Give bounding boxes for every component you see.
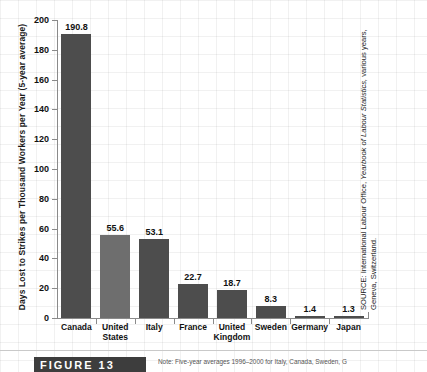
y-tick-label-200: 200: [34, 15, 49, 25]
y-tick-label-140: 140: [34, 104, 49, 114]
y-tick-label-40: 40: [39, 253, 49, 263]
value-label-italy: 53.1: [132, 227, 176, 237]
bar-united-states: [100, 235, 130, 318]
caption-divider: [0, 350, 427, 351]
source-prefix: SOURCE: International Labour Office,: [359, 182, 368, 310]
value-label-germany: 1.4: [288, 304, 332, 314]
bar-japan: [334, 316, 364, 318]
y-tick-label-160: 160: [34, 75, 49, 85]
figure-number-badge: FIGURE 13: [34, 357, 146, 372]
source-note: SOURCE: International Labour Office, Yea…: [359, 10, 379, 310]
value-label-united-states: 55.6: [93, 223, 137, 233]
y-tick-label-0: 0: [44, 313, 49, 323]
bar-canada: [61, 34, 91, 318]
category-label-japan: Japan: [323, 322, 375, 332]
bar-france: [178, 284, 208, 318]
figure-chart: Days Lost to Strikes per Thousand Worker…: [0, 0, 427, 372]
plot-area: 020406080100120140160180200 190.855.653.…: [57, 20, 368, 318]
y-tick-20: [52, 288, 57, 289]
y-axis-line: [57, 20, 58, 319]
y-tick-label-20: 20: [39, 283, 49, 293]
value-label-united-kingdom: 18.7: [210, 278, 254, 288]
bar-germany: [295, 316, 325, 318]
value-label-sweden: 8.3: [249, 294, 293, 304]
bar-united-kingdom: [217, 290, 247, 318]
figure-note: Note: Five-year averages 1996–2000 for I…: [158, 358, 426, 372]
y-tick-100: [52, 169, 57, 170]
y-tick-60: [52, 229, 57, 230]
y-axis-title: Days Lost to Strikes per Thousand Worker…: [17, 12, 27, 322]
y-tick-40: [52, 258, 57, 259]
y-tick-80: [52, 199, 57, 200]
y-tick-label-180: 180: [34, 45, 49, 55]
value-label-france: 22.7: [171, 272, 215, 282]
y-tick-140: [52, 109, 57, 110]
y-tick-label-60: 60: [39, 224, 49, 234]
y-tick-180: [52, 50, 57, 51]
source-italic-title: Yearbook of Labour Statistics,: [359, 79, 368, 180]
bar-italy: [139, 239, 169, 318]
y-tick-label-80: 80: [39, 194, 49, 204]
y-tick-label-100: 100: [34, 164, 49, 174]
value-label-canada: 190.8: [54, 22, 98, 32]
y-tick-120: [52, 139, 57, 140]
bar-sweden: [256, 306, 286, 318]
y-tick-label-120: 120: [34, 134, 49, 144]
y-tick-160: [52, 80, 57, 81]
y-tick-0: [52, 318, 57, 319]
